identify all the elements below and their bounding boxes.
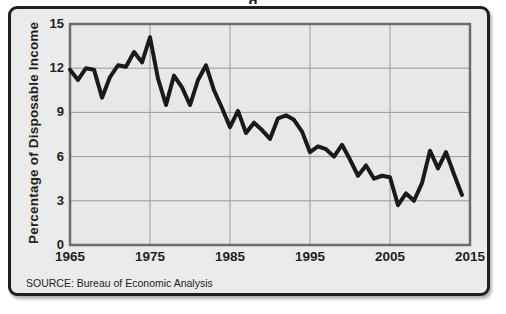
x-tick-1985: 1985 — [200, 249, 260, 264]
y-tick-3: 3 — [38, 193, 64, 208]
x-tick-2015: 2015 — [440, 249, 500, 264]
x-tick-1995: 1995 — [280, 249, 340, 264]
x-tick-1975: 1975 — [120, 249, 180, 264]
x-tick-1965: 1965 — [40, 249, 100, 264]
y-tick-12: 12 — [38, 60, 64, 75]
chart-plot-wrapper: Percentage of Disposable Income 03691215… — [0, 0, 506, 314]
y-axis-label: Percentage of Disposable Income — [26, 22, 41, 244]
y-tick-9: 9 — [38, 104, 64, 119]
chart-svg — [0, 0, 506, 314]
source-note: SOURCE: Bureau of Economic Analysis — [26, 277, 213, 289]
y-tick-15: 15 — [38, 16, 64, 31]
x-tick-2005: 2005 — [360, 249, 420, 264]
y-tick-6: 6 — [38, 149, 64, 164]
